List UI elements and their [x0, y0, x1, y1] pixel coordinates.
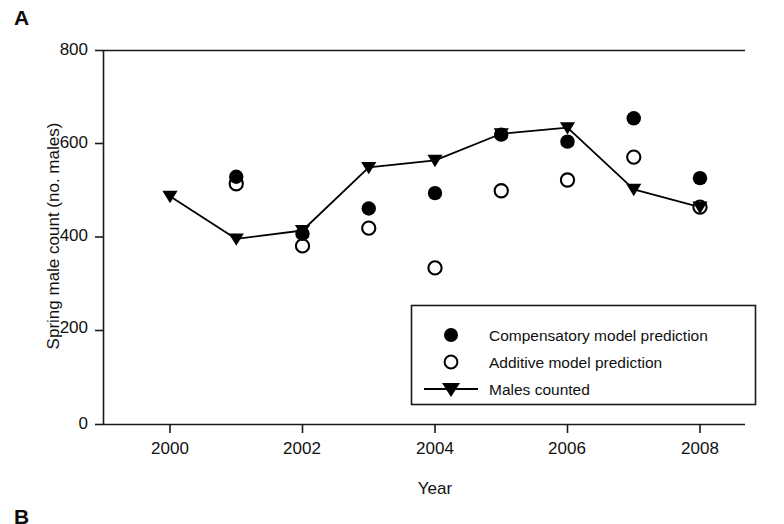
- data-point-compensatory: [560, 134, 574, 148]
- series-compensatory-model-markers: [229, 111, 707, 241]
- filled-circle-icon: [444, 328, 458, 342]
- males-counted-polyline: [170, 128, 700, 239]
- series-males-counted-line: [170, 128, 700, 239]
- legend-label-males-counted: Males counted: [489, 381, 590, 398]
- data-point-additive: [296, 239, 309, 252]
- data-point-compensatory: [428, 186, 442, 200]
- plot-area: Compensatory model prediction Additive m…: [0, 0, 784, 524]
- data-point-additive: [627, 150, 640, 163]
- data-point-compensatory: [627, 111, 641, 125]
- data-point-additive: [561, 173, 574, 186]
- y-axis-ticks: [95, 51, 103, 425]
- legend-label-compensatory: Compensatory model prediction: [489, 327, 708, 344]
- data-point-additive: [362, 222, 375, 235]
- data-point-compensatory: [229, 170, 243, 184]
- open-circle-icon: [445, 356, 458, 369]
- figure-panel-a: A B Spring male count (no. males) Year 8…: [0, 0, 784, 524]
- series-males-counted-markers: [162, 122, 707, 246]
- data-point-males-counted: [162, 191, 177, 203]
- data-point-compensatory: [693, 171, 707, 185]
- data-point-additive: [428, 261, 441, 274]
- data-point-additive: [495, 184, 508, 197]
- x-axis-ticks: [170, 424, 700, 433]
- data-point-compensatory: [362, 201, 376, 215]
- legend-label-additive: Additive model prediction: [489, 354, 662, 371]
- series-additive-model-markers: [230, 150, 707, 274]
- legend: Compensatory model prediction Additive m…: [412, 306, 756, 405]
- data-point-males-counted: [229, 233, 244, 245]
